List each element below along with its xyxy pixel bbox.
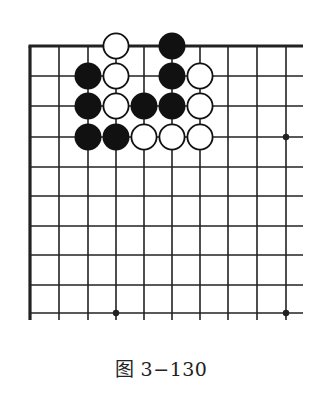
black-stone bbox=[75, 63, 102, 90]
figure-caption: 图 3−130 bbox=[0, 354, 322, 381]
go-board bbox=[0, 0, 322, 340]
star-point-icon bbox=[283, 134, 289, 140]
black-stone bbox=[159, 33, 186, 60]
white-stone bbox=[103, 93, 128, 118]
white-stone bbox=[187, 124, 212, 149]
star-points bbox=[113, 134, 289, 316]
star-point-icon bbox=[283, 310, 289, 316]
black-stone bbox=[159, 93, 186, 120]
black-stone bbox=[75, 93, 102, 120]
white-stone bbox=[103, 63, 128, 88]
star-point-icon bbox=[113, 310, 119, 316]
black-stone bbox=[159, 63, 186, 90]
white-stone bbox=[187, 93, 212, 118]
white-stone bbox=[159, 124, 184, 149]
black-stone bbox=[75, 124, 102, 151]
white-stone bbox=[103, 33, 128, 58]
white-stone bbox=[131, 124, 156, 149]
white-stone bbox=[187, 63, 212, 88]
black-stone bbox=[131, 93, 158, 120]
black-stone bbox=[103, 124, 130, 151]
